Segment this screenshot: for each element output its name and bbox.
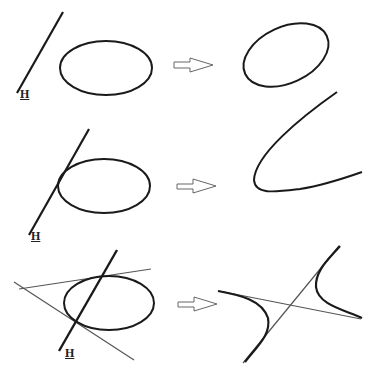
result-parabola bbox=[254, 92, 362, 191]
ellipse-3 bbox=[64, 276, 154, 330]
line-h-3 bbox=[59, 250, 117, 351]
row-2-source bbox=[29, 129, 150, 235]
line-h-label-1: H bbox=[20, 88, 29, 100]
row-3-result bbox=[218, 246, 362, 363]
hyperbola-branch-left bbox=[218, 291, 268, 362]
arrow-icon-2 bbox=[177, 179, 216, 193]
ellipse-2 bbox=[58, 159, 150, 213]
arrow-icon-3 bbox=[178, 297, 217, 311]
row-1-result bbox=[233, 11, 338, 100]
row-1-source bbox=[17, 12, 152, 95]
ellipse-1 bbox=[60, 41, 152, 95]
row-3-source bbox=[14, 250, 154, 360]
arrow-icon-1 bbox=[174, 58, 213, 72]
row-2-result bbox=[254, 92, 362, 191]
result-ellipse bbox=[233, 11, 338, 100]
line-h-label-3: H bbox=[65, 347, 74, 359]
conic-diagram bbox=[0, 0, 378, 378]
line-h-1 bbox=[17, 12, 63, 93]
hyperbola-branch-right bbox=[316, 246, 362, 318]
line-h-label-2: H bbox=[31, 230, 40, 242]
